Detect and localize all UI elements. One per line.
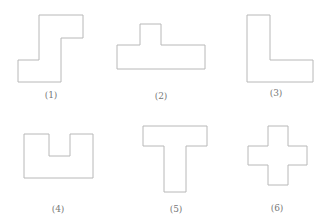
shape-label-3: (3) [270,88,283,98]
shape-4 [24,134,93,178]
shape-label-5: (5) [170,204,183,214]
figure-canvas [0,0,331,224]
shape-1 [18,15,83,82]
shape-label-1: (1) [45,90,58,100]
shape-5 [143,126,207,192]
shape-2 [117,24,205,69]
shape-label-2: (2) [155,91,168,101]
shape-label-6: (6) [271,203,284,213]
shape-label-4: (4) [52,204,65,214]
shape-6 [248,126,307,185]
shape-3 [247,15,313,82]
